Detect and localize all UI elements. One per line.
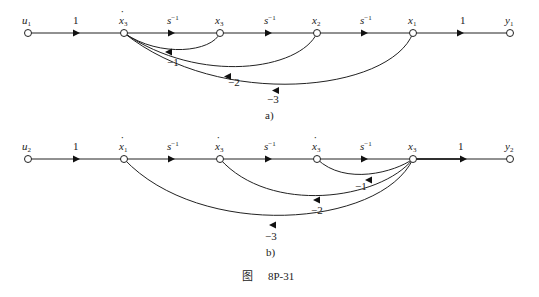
arrow-icon: [73, 156, 80, 163]
gain-a-5: 1: [460, 14, 466, 26]
feedback-gain-b-2: −2: [311, 204, 323, 216]
node-x3dot: [314, 156, 321, 163]
figure-caption-prefix: 图: [242, 270, 253, 282]
node-x1: [410, 30, 417, 37]
feedback-branch-a-2: [124, 33, 317, 67]
gain-b-5: 1: [458, 140, 464, 152]
arrow-icon: [73, 30, 80, 37]
arrow-icon: [265, 30, 272, 37]
node-x3: [217, 30, 224, 37]
sublabel-a: a): [265, 109, 274, 122]
diagram-b: u2 x1 · x3 · x3 · x3 y2 1 s−1 s−1 s−1 1 …: [22, 131, 514, 259]
arrow-icon: [361, 156, 368, 163]
node-x3: [410, 156, 417, 163]
feedback-gain-b-1: −1: [355, 180, 367, 192]
gain-b-1: 1: [73, 140, 79, 152]
node-u1: [25, 30, 32, 37]
node-label-u2: u2: [22, 140, 32, 154]
arrow-icon: [168, 30, 175, 37]
diagram-a: u1 x3 · x3 x2 x1 y1 1 s−1 s−1 s−1 1 −1 −…: [22, 5, 514, 122]
node-y2: [507, 156, 514, 163]
node-label-y1: y1: [504, 14, 514, 28]
node-x2: [314, 30, 321, 37]
arrow-icon: [168, 156, 175, 163]
dot-accent: ·: [121, 5, 125, 17]
gain-b-4: s−1: [360, 140, 372, 152]
arrow-icon: [460, 156, 467, 163]
sublabel-b: b): [266, 246, 276, 259]
feedback-gain-b-3: −3: [265, 230, 277, 242]
node-x3dot: [121, 30, 128, 37]
node-label-u1: u1: [22, 14, 32, 28]
feedback-gain-a-1: −1: [167, 56, 179, 68]
node-u2: [25, 156, 32, 163]
feedback-gain-a-3: −3: [267, 93, 279, 105]
node-y1: [507, 30, 514, 37]
feedback-gain-a-2: −2: [228, 76, 240, 88]
feedback-branch-a-1: [124, 33, 220, 50]
feedback-branch-b-3: [124, 159, 413, 215]
gain-a-2: s−1: [167, 14, 179, 26]
signal-flow-figure: u1 x3 · x3 x2 x1 y1 1 s−1 s−1 s−1 1 −1 −…: [0, 0, 539, 297]
node-label-x3: x3: [214, 14, 224, 28]
node-x2dot: [217, 156, 224, 163]
node-label-x3: x3: [407, 140, 417, 154]
node-label-x2: x2: [311, 14, 321, 28]
dot-accent: ·: [314, 131, 318, 143]
dot-accent: ·: [121, 131, 125, 143]
arrow-icon: [313, 197, 320, 204]
dot-accent: ·: [217, 131, 221, 143]
node-label-y2: y2: [504, 140, 514, 154]
arrow-icon: [361, 30, 368, 37]
arrow-icon: [269, 222, 276, 229]
node-label-x1: x1: [407, 14, 417, 28]
gain-b-3: s−1: [264, 140, 276, 152]
gain-b-2: s−1: [167, 140, 179, 152]
gain-a-3: s−1: [264, 14, 276, 26]
node-x1dot: [121, 156, 128, 163]
gain-a-1: 1: [73, 14, 79, 26]
arrow-icon: [457, 30, 464, 37]
figure-caption-number: 8P-31: [268, 270, 294, 282]
arrow-icon: [265, 156, 272, 163]
gain-a-4: s−1: [360, 14, 372, 26]
